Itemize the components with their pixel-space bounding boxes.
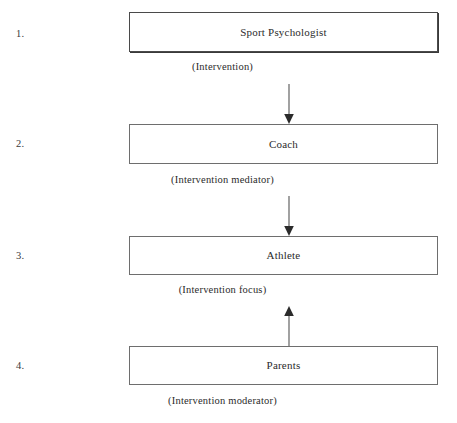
node-label-parents: Parents (267, 360, 301, 371)
node-label-sport-psychologist: Sport Psychologist (240, 27, 326, 38)
intervention-chain-diagram: 1. Sport Psychologist (Intervention) 2. … (0, 0, 457, 423)
caption-intervention-focus-text: (Intervention focus) (179, 285, 267, 296)
node-label-athlete: Athlete (267, 250, 301, 261)
caption-intervention-text: (Intervention) (192, 62, 253, 73)
caption-intervention-moderator: (Intervention moderator) (0, 396, 457, 407)
caption-intervention-mediator-text: (Intervention mediator) (171, 175, 274, 186)
arrow-coach-to-athlete (284, 196, 294, 236)
caption-intervention-moderator-text: (Intervention moderator) (168, 396, 277, 407)
step-number-3: 3. (16, 251, 44, 262)
node-box-parents[interactable]: Parents (129, 346, 438, 385)
node-box-coach[interactable]: Coach (129, 124, 438, 164)
arrow-parents-to-athlete (284, 306, 294, 346)
step-number-2: 2. (16, 139, 44, 150)
arrow-psychologist-to-coach (284, 84, 294, 124)
node-box-athlete[interactable]: Athlete (129, 236, 438, 275)
caption-intervention: (Intervention) (0, 62, 457, 73)
caption-intervention-focus: (Intervention focus) (0, 285, 457, 296)
step-number-1: 1. (16, 29, 44, 40)
node-label-coach: Coach (269, 139, 298, 150)
node-box-sport-psychologist[interactable]: Sport Psychologist (129, 12, 438, 52)
step-number-4: 4. (16, 361, 44, 372)
caption-intervention-mediator: (Intervention mediator) (0, 175, 457, 186)
